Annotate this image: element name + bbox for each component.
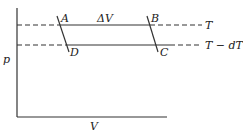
isotherm-t-label: T xyxy=(205,19,214,32)
point-c-label: C xyxy=(160,46,169,59)
point-b-label: B xyxy=(150,12,159,25)
pv-diagram: A B C D ΔV T T − dT p V xyxy=(0,0,243,133)
x-axis-label: V xyxy=(90,120,99,133)
delta-v-label: ΔV xyxy=(96,12,114,25)
isotherm-t-minus-dt-label: T − dT xyxy=(205,39,243,52)
point-a-label: A xyxy=(60,12,69,25)
point-d-label: D xyxy=(69,46,79,59)
y-axis-label: p xyxy=(3,53,10,66)
